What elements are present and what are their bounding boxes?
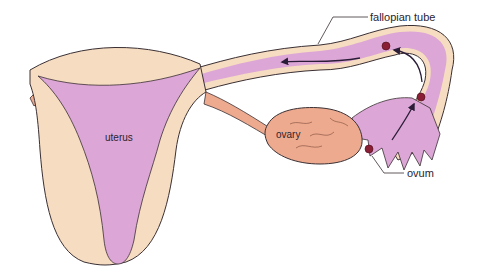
ovum-in-tube-upper [382,42,390,50]
label-ovum: ovum [407,167,434,179]
ovum-released [365,145,373,153]
label-fallopian-tube: fallopian tube [370,11,435,23]
ovum-in-tube-lower [417,93,425,101]
label-uterus: uterus [105,132,133,143]
uterus-diagram: uterus ovary fallopian tube ovum [0,0,483,270]
ovarian-ligament [204,92,274,140]
label-ovary: ovary [276,129,300,140]
